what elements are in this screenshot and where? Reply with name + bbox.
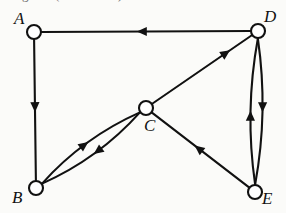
node-d[interactable] <box>251 24 265 38</box>
arrowhead-e-to-d <box>246 111 255 121</box>
node-label-a: A <box>14 10 24 27</box>
edge-c-to-d <box>152 35 252 104</box>
node-a[interactable] <box>27 25 41 39</box>
directed-graph-canvas <box>0 0 286 213</box>
edge-e-to-d <box>250 38 257 184</box>
edge-c-to-b <box>42 112 140 183</box>
arrowhead-d-to-e <box>258 102 267 112</box>
node-label-b: B <box>12 189 22 206</box>
node-label-c: C <box>144 117 155 134</box>
arrowhead-d-to-a <box>137 27 147 36</box>
node-c[interactable] <box>139 101 153 115</box>
figure-container: diagram. (Section 4.6) ADCBE <box>0 0 286 213</box>
arrowhead-a-to-b <box>30 102 39 112</box>
edge-d-to-e <box>255 38 262 184</box>
node-label-d: D <box>264 8 276 25</box>
arrowhead-c-to-d <box>219 50 230 59</box>
node-b[interactable] <box>29 181 43 195</box>
node-e[interactable] <box>248 185 262 199</box>
node-label-e: E <box>262 190 272 207</box>
edge-b-to-c <box>42 112 140 183</box>
